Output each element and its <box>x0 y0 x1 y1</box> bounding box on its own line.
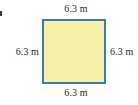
side-label-bottom: 6.3 m <box>61 87 91 98</box>
square-shape <box>42 19 106 84</box>
geometry-figure: 6.3 m 6.3 m 6.3 m 6.3 m <box>0 0 138 105</box>
side-label-top: 6.3 m <box>61 3 91 14</box>
list-item-marker <box>0 11 2 16</box>
side-label-left: 6.3 m <box>8 46 39 57</box>
side-label-right: 6.3 m <box>110 46 138 57</box>
